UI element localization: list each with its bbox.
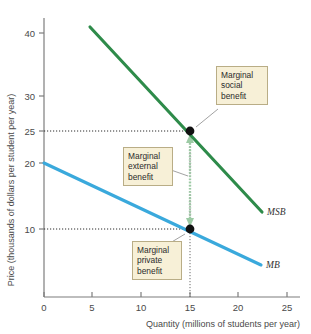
msb-curve (90, 27, 262, 212)
callout-social-line2: social (221, 80, 263, 90)
callout-marginal-external-benefit: Marginal external benefit (123, 147, 173, 186)
y-tick-label-40: 40 (24, 28, 35, 39)
y-tick-label-25: 25 (24, 126, 35, 137)
x-tick-label-0: 0 (41, 302, 46, 313)
y-tick-label-20: 20 (24, 158, 35, 169)
x-tick-label-20: 20 (233, 302, 244, 313)
y-tick-label-10: 10 (24, 224, 35, 235)
leader-line-social (196, 109, 218, 127)
marginal-benefit-chart: 40 30 25 20 10 0 5 10 15 20 25 Quantity … (0, 0, 311, 334)
callout-external-line3: benefit (128, 172, 168, 182)
x-tick-label-5: 5 (89, 302, 94, 313)
callout-external-line1: Marginal (128, 151, 168, 161)
msb-curve-label: MSB (266, 207, 286, 217)
mb-curve-label: MB (265, 260, 280, 270)
callout-social-line3: benefit (221, 91, 263, 101)
x-tick-label-10: 10 (136, 302, 147, 313)
callout-private-line1: Marginal (137, 245, 177, 255)
y-axis-title: Price (thousands of dollars per student … (6, 94, 16, 287)
callout-marginal-private-benefit: Marginal private benefit (132, 241, 182, 280)
callout-external-line2: external (128, 161, 168, 171)
x-tick-label-15: 15 (185, 302, 196, 313)
callout-private-line3: benefit (137, 266, 177, 276)
callout-marginal-social-benefit: Marginal social benefit (216, 66, 268, 105)
x-axis-title: Quantity (millions of students per year) (146, 319, 300, 329)
callout-social-line1: Marginal (221, 70, 263, 80)
marginal-private-benefit-point (186, 225, 195, 234)
leader-line-external (171, 170, 188, 176)
marginal-social-benefit-point (186, 127, 195, 136)
y-tick-label-30: 30 (24, 91, 35, 102)
x-tick-label-25: 25 (282, 302, 293, 313)
callout-private-line2: private (137, 255, 177, 265)
